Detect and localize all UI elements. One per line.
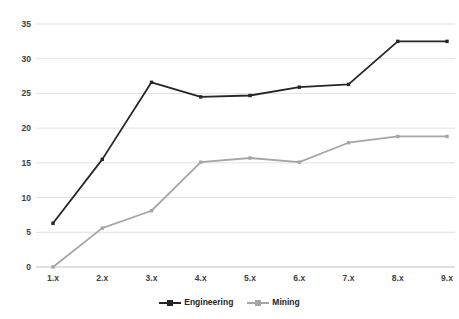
x-axis-tick-label: 3.x bbox=[146, 273, 158, 283]
legend-label-mining: Mining bbox=[272, 298, 299, 307]
x-axis-tick-label: 9.x bbox=[441, 273, 453, 283]
series-line-mining bbox=[53, 136, 447, 267]
x-axis-tick-label: 6.x bbox=[293, 273, 305, 283]
data-point-marker bbox=[51, 222, 54, 225]
data-point-marker bbox=[298, 85, 301, 88]
data-point-marker bbox=[101, 158, 104, 161]
data-point-marker bbox=[347, 141, 350, 144]
y-axis-tick-labels: 05101520253035 bbox=[22, 19, 32, 272]
x-axis-tick-label: 5.x bbox=[244, 273, 256, 283]
chart-legend: Engineering Mining bbox=[0, 298, 459, 307]
legend-swatch-engineering bbox=[159, 298, 181, 307]
x-axis-tick-label: 2.x bbox=[96, 273, 108, 283]
x-axis-tick-labels: 1.x2.x3.x4.x5.x6.x7.x8.x9.x bbox=[47, 273, 453, 283]
y-axis-tick-label: 20 bbox=[22, 123, 32, 133]
x-axis-tick-label: 8.x bbox=[392, 273, 404, 283]
data-point-marker bbox=[445, 40, 448, 43]
line-chart: 05101520253035 1.x2.x3.x4.x5.x6.x7.x8.x9… bbox=[0, 0, 459, 319]
data-point-marker bbox=[396, 40, 399, 43]
data-point-marker bbox=[396, 135, 399, 138]
data-point-marker bbox=[150, 209, 153, 212]
y-axis-tick-label: 35 bbox=[22, 19, 32, 29]
data-point-marker bbox=[445, 135, 448, 138]
data-marker-group bbox=[51, 40, 448, 269]
x-axis-tick-label: 1.x bbox=[47, 273, 59, 283]
y-axis-tick-label: 30 bbox=[22, 54, 32, 64]
data-point-marker bbox=[51, 265, 54, 268]
data-point-marker bbox=[248, 156, 251, 159]
series-line-engineering bbox=[53, 41, 447, 223]
data-series-group bbox=[53, 41, 447, 267]
data-point-marker bbox=[298, 160, 301, 163]
data-point-marker bbox=[199, 160, 202, 163]
legend-item-engineering[interactable]: Engineering bbox=[159, 298, 233, 307]
y-axis-tick-label: 5 bbox=[26, 227, 31, 237]
y-axis-tick-label: 15 bbox=[22, 158, 32, 168]
legend-swatch-mining bbox=[247, 298, 269, 307]
y-axis-tick-label: 25 bbox=[22, 88, 32, 98]
data-point-marker bbox=[150, 81, 153, 84]
data-point-marker bbox=[347, 83, 350, 86]
legend-marker-engineering bbox=[167, 300, 173, 306]
legend-item-mining[interactable]: Mining bbox=[247, 298, 299, 307]
y-axis-tick-label: 0 bbox=[26, 262, 31, 272]
data-point-marker bbox=[101, 226, 104, 229]
legend-label-engineering: Engineering bbox=[184, 298, 233, 307]
data-point-marker bbox=[248, 94, 251, 97]
y-axis-tick-label: 10 bbox=[22, 193, 32, 203]
x-axis-tick-label: 4.x bbox=[195, 273, 207, 283]
legend-marker-mining bbox=[255, 300, 261, 306]
x-axis-tick-label: 7.x bbox=[343, 273, 355, 283]
data-point-marker bbox=[199, 95, 202, 98]
chart-plot-area: 05101520253035 1.x2.x3.x4.x5.x6.x7.x8.x9… bbox=[0, 0, 459, 319]
